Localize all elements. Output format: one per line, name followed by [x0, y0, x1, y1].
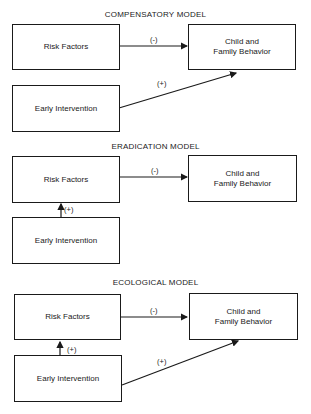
ecological-risk-factors-box: Risk Factors	[14, 294, 121, 340]
outcome-label-line1: Child and	[226, 169, 260, 179]
compensatory-risk-sign: (-)	[150, 35, 158, 44]
ecological-early-intervention-box: Early Intervention	[14, 355, 122, 402]
risk-factors-label: Risk Factors	[44, 175, 88, 185]
risk-factors-label: Risk Factors	[45, 312, 89, 322]
compensatory-model-title: COMPENSATORY MODEL	[0, 10, 311, 19]
compensatory-outcome-box: Child and Family Behavior	[188, 24, 296, 70]
early-intervention-label: Early Intervention	[35, 104, 97, 114]
eradication-risk-factors-box: Risk Factors	[12, 156, 120, 203]
ecological-outcome-box: Child and Family Behavior	[189, 293, 298, 340]
eradication-risk-sign: (-)	[151, 166, 159, 175]
eradication-model-title: ERADICATION MODEL	[0, 142, 311, 151]
early-intervention-label: Early Intervention	[37, 374, 99, 384]
early-intervention-label: Early Intervention	[35, 236, 97, 246]
eradication-intervention-sign: (+)	[64, 205, 73, 214]
eradication-outcome-box: Child and Family Behavior	[188, 155, 297, 202]
outcome-label-line2: Family Behavior	[214, 179, 271, 189]
outcome-label-line1: Child and	[225, 37, 259, 47]
outcome-label-line2: Family Behavior	[213, 47, 270, 57]
compensatory-intervention-sign: (+)	[157, 79, 166, 88]
ecological-model-title: ECOLOGICAL MODEL	[0, 278, 311, 287]
compensatory-early-intervention-box: Early Intervention	[12, 85, 120, 132]
outcome-label-line2: Family Behavior	[215, 317, 272, 327]
ecological-risk-sign: (-)	[150, 306, 158, 315]
compensatory-risk-factors-box: Risk Factors	[12, 24, 120, 70]
outcome-label-line1: Child and	[227, 307, 261, 317]
ecological-intervention-risk-sign: (+)	[67, 345, 76, 354]
ecological-intervention-outcome-sign: (+)	[157, 357, 166, 366]
eradication-early-intervention-box: Early Intervention	[12, 217, 120, 264]
risk-factors-label: Risk Factors	[44, 42, 88, 52]
